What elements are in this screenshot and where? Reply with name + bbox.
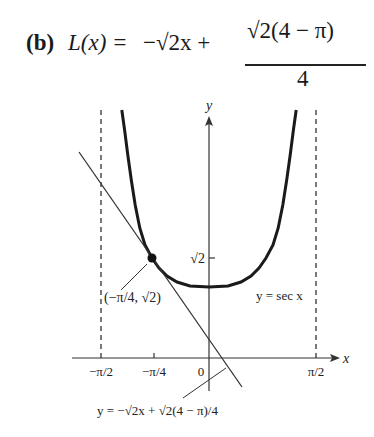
tick-label-neg-pi-quarter: −π/4 xyxy=(142,364,167,379)
point-label-leader xyxy=(121,264,147,290)
tangent-line xyxy=(79,152,242,387)
tick-label-sqrt2: √2 xyxy=(190,251,205,266)
tangent-point xyxy=(148,254,157,263)
graph: y x −π/2 −π/4 0 π/2 √2 (−π/4, √2) y = se… xyxy=(0,0,374,437)
tangent-label-leader xyxy=(183,368,226,398)
y-axis-label: y xyxy=(204,98,213,113)
tick-label-zero: 0 xyxy=(198,364,205,379)
tangent-label: y = −√2x + √2(4 − π)/4 xyxy=(97,403,218,418)
x-axis-label: x xyxy=(342,351,350,366)
tick-label-pi-half: π/2 xyxy=(308,364,325,379)
tick-label-neg-pi-half: −π/2 xyxy=(89,364,113,379)
curve-label: y = sec x xyxy=(256,288,303,303)
point-label: (−π/4, √2) xyxy=(104,290,161,306)
